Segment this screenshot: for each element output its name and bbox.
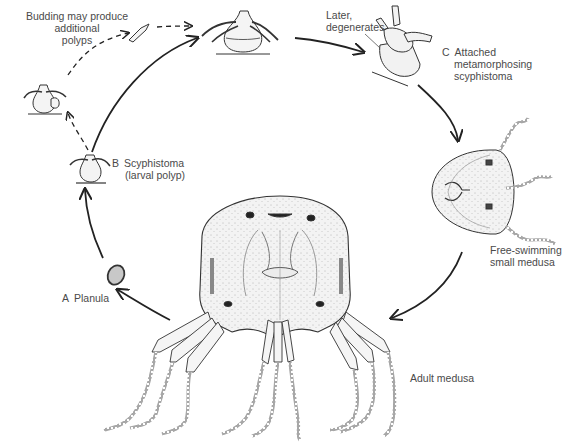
arrow-metamorphosing-to-small-medusa (418, 85, 458, 140)
label-stage-a: APlanula (62, 292, 109, 304)
arrow-adult-to-planula (118, 290, 170, 320)
label-budding-line-1: Budding may produce (12, 10, 142, 22)
stage-c-letter: C (442, 46, 450, 58)
degenerates-pointer (365, 34, 380, 48)
label-budding-line-3: polyps (12, 34, 142, 46)
scyphistoma-illustration (70, 155, 110, 183)
adult-medusa-illustration (104, 196, 395, 440)
label-later-degenerates: Later, degenerates (326, 9, 384, 33)
free-swimming-line-1: Free-swimming (490, 244, 562, 256)
stage-c-line-1: Attached (455, 46, 496, 58)
arrow-scyphistoma-to-polyp (92, 38, 197, 152)
stage-a-letter: A (62, 292, 69, 304)
label-later-line-1: Later, (326, 9, 384, 21)
stage-a-text: Planula (74, 292, 109, 304)
arrow-polyp-to-metamorphosing (295, 38, 363, 52)
budding-polyp-illustration (24, 85, 66, 114)
arrow-bud-to-polyp (157, 26, 191, 27)
stage-c-line-3: scyphistoma (442, 70, 532, 82)
stage-b-line-2: (larval polyp) (112, 169, 185, 181)
polyp-illustration (202, 11, 278, 54)
label-later-line-2: degenerates (326, 21, 384, 33)
stage-c-line-2: metamorphosing (442, 58, 532, 70)
arrow-small-medusa-to-adult (392, 252, 462, 318)
arrow-planula-to-scyphistoma (85, 190, 103, 258)
label-stage-c: CAttached metamorphosing scyphistoma (442, 46, 532, 82)
label-free-swimming: Free-swimming small medusa (490, 244, 562, 268)
arrow-scyphistoma-to-budding-polyp (68, 113, 88, 150)
free-swimming-line-2: small medusa (490, 256, 562, 268)
label-budding: Budding may produce additional polyps (12, 10, 142, 46)
stage-b-letter: B (112, 157, 119, 169)
small-medusa-illustration (432, 118, 555, 244)
adult-medusa-text: Adult medusa (410, 372, 474, 384)
label-stage-b: BScyphistoma (larval polyp) (112, 157, 185, 181)
planula-illustration (105, 263, 128, 288)
stage-b-line-1: Scyphistoma (124, 157, 184, 169)
label-budding-line-2: additional (12, 22, 142, 34)
label-adult-medusa: Adult medusa (410, 372, 474, 384)
